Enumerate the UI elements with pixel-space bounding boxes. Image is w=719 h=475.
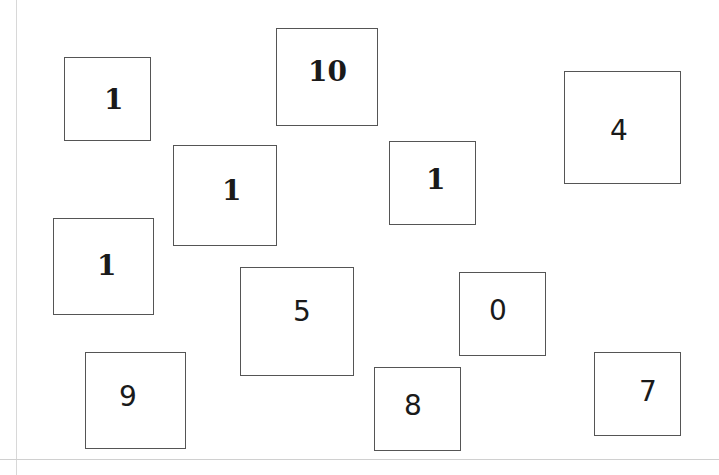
card-number: 1 bbox=[104, 86, 123, 114]
number-card[interactable]: 9 bbox=[85, 352, 186, 449]
number-card[interactable]: 1 bbox=[389, 141, 476, 225]
card-number: 5 bbox=[293, 298, 311, 326]
number-card[interactable]: 1 bbox=[173, 145, 277, 246]
card-number: 1 bbox=[426, 166, 445, 194]
number-card[interactable]: 8 bbox=[374, 367, 461, 451]
bottom-baseline bbox=[0, 459, 719, 460]
card-number: 10 bbox=[308, 58, 347, 86]
number-card[interactable]: 7 bbox=[594, 352, 681, 436]
card-number: 7 bbox=[639, 378, 657, 406]
number-card[interactable]: 1 bbox=[64, 57, 151, 141]
number-card[interactable]: 1 bbox=[53, 218, 154, 315]
left-margin-line bbox=[16, 0, 17, 475]
card-number: 1 bbox=[97, 252, 116, 280]
card-number: 0 bbox=[489, 297, 507, 325]
number-card[interactable]: 4 bbox=[564, 71, 681, 184]
number-card[interactable]: 5 bbox=[240, 267, 354, 376]
card-number: 4 bbox=[610, 117, 628, 145]
number-card[interactable]: 10 bbox=[276, 28, 378, 126]
number-card[interactable]: 0 bbox=[459, 272, 546, 356]
card-number: 9 bbox=[119, 383, 137, 411]
card-number: 8 bbox=[404, 392, 422, 420]
card-number: 1 bbox=[222, 177, 241, 205]
